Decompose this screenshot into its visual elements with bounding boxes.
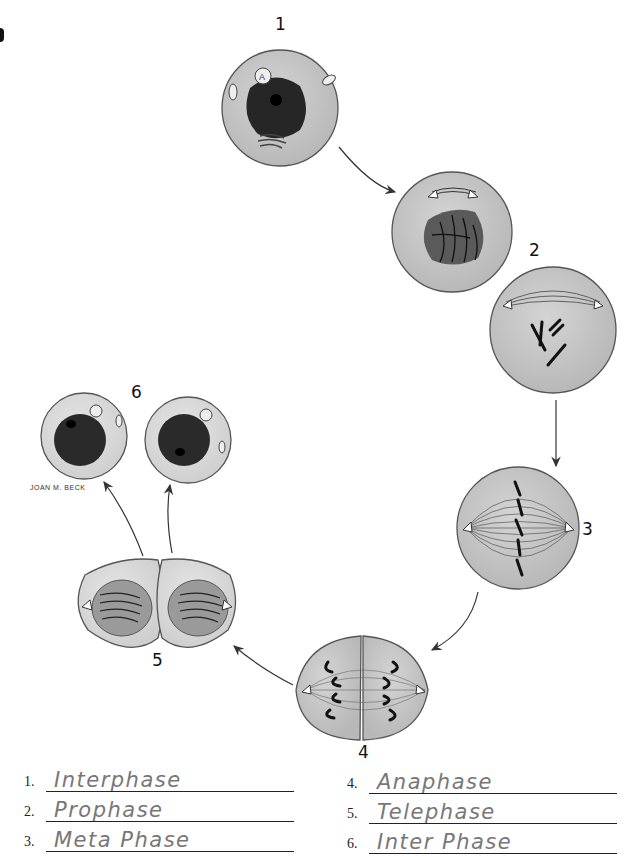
answer-text: Meta Phase <box>54 828 191 852</box>
answer-field-3[interactable]: 3. Meta Phase <box>24 828 294 854</box>
answer-field-2[interactable]: 2. Prophase <box>24 798 294 824</box>
stage-label-3: 3 <box>582 519 593 539</box>
artist-credit: JOAN M. BECK <box>30 484 85 491</box>
stage-label-1: 1 <box>275 14 286 34</box>
answer-number: 2. <box>24 804 35 820</box>
answer-text: Anaphase <box>377 770 493 794</box>
answer-field-1[interactable]: 1. Interphase <box>24 768 294 794</box>
answer-text: Inter Phase <box>377 830 512 854</box>
answer-number: 4. <box>347 776 358 792</box>
cell-metaphase <box>457 467 579 589</box>
answer-text: Telephase <box>377 800 496 824</box>
stage-label-4: 4 <box>358 742 369 762</box>
answer-number: 3. <box>24 834 35 850</box>
cell-daughter-right <box>145 397 231 483</box>
stage-label-2: 2 <box>529 240 540 260</box>
svg-text:A: A <box>259 72 265 82</box>
cell-early-prophase <box>392 172 512 292</box>
answer-text: Interphase <box>54 768 182 792</box>
answer-field-6[interactable]: 6. Inter Phase <box>347 830 617 856</box>
stage-label-5: 5 <box>152 650 163 670</box>
cell-telophase <box>78 559 235 647</box>
cell-interphase: A <box>222 50 338 166</box>
stage-label-6: 6 <box>131 382 142 402</box>
answer-field-4[interactable]: 4. Anaphase <box>347 770 617 796</box>
answer-text: Prophase <box>54 798 164 822</box>
answer-number: 1. <box>24 774 35 790</box>
answer-number: 5. <box>347 806 358 822</box>
answer-number: 6. <box>347 836 358 852</box>
answer-field-5[interactable]: 5. Telephase <box>347 800 617 826</box>
cell-prophase <box>490 267 616 393</box>
cell-anaphase <box>296 636 428 740</box>
cell-daughter-left <box>41 393 127 479</box>
